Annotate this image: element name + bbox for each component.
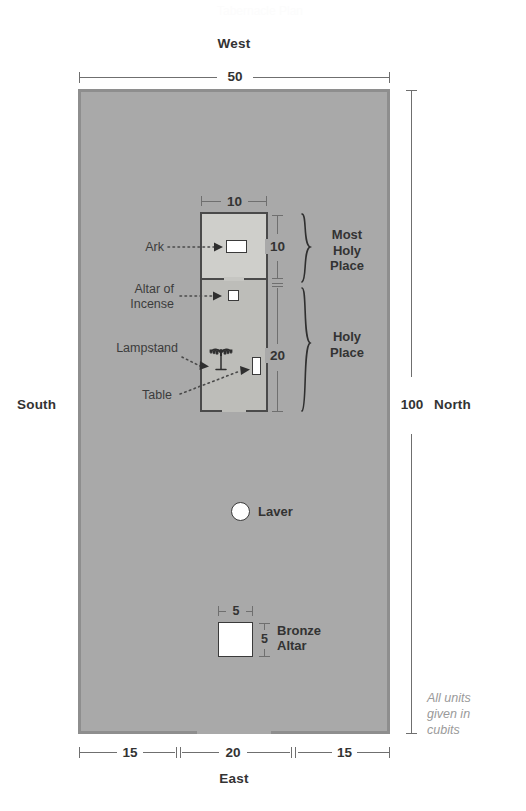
- dim-bottom-tick-a1: [176, 747, 177, 758]
- dim-entrance-middle-value: 20: [219, 745, 247, 760]
- tabernacle-diagram: Tabernacle Plan West 50 100 North South …: [0, 0, 526, 811]
- units-footnote-line1: All units: [427, 690, 522, 706]
- dim-15l-rule-a: [79, 752, 117, 753]
- dim-ba-depth-rule-top: [264, 623, 265, 630]
- label-most-holy-place-line1: Most: [316, 227, 378, 243]
- dim-bottom-tick-right: [389, 747, 390, 758]
- dim-20-rule-b: [247, 752, 290, 753]
- dim-15r-rule-b: [357, 752, 390, 753]
- dim-15r-rule-a: [298, 752, 332, 753]
- dim-ba-width-tick-right: [252, 606, 253, 616]
- compass-label-east: East: [0, 771, 468, 786]
- dim-bottom-tick-b2: [295, 747, 296, 758]
- dim-room-separator-tick-2: [272, 286, 283, 287]
- label-most-holy-place-line2: Holy: [316, 243, 378, 259]
- label-table: Table: [92, 388, 172, 403]
- dim-bronze-altar-depth-value: 5: [255, 632, 274, 646]
- dim-hp-rule-top: [277, 288, 278, 344]
- label-holy-place: Holy Place: [316, 329, 378, 360]
- label-altar-of-incense-line2: Incense: [70, 297, 174, 312]
- label-most-holy-place: Most Holy Place: [316, 227, 378, 274]
- label-ark: Ark: [78, 240, 164, 255]
- dim-entrance-right-value: 15: [332, 745, 357, 760]
- label-most-holy-place-line3: Place: [316, 258, 378, 274]
- dim-holy-length-value: 20: [265, 348, 290, 363]
- units-footnote-line3: cubits: [427, 722, 522, 738]
- dim-ba-depth-rule-bottom: [264, 649, 265, 656]
- dim-15l-rule-b: [143, 752, 175, 753]
- label-altar-of-incense-line1: Altar of: [70, 282, 174, 297]
- dim-ba-depth-tick-bottom: [259, 656, 270, 657]
- dim-hp-rule-bottom: [277, 371, 278, 411]
- dim-20-rule-a: [182, 752, 219, 753]
- dim-ba-width-rule-left: [218, 611, 226, 612]
- dim-bronze-altar-width-value: 5: [226, 604, 246, 618]
- dim-ba-width-tick-left: [218, 606, 219, 616]
- label-altar-of-incense: Altar of Incense: [70, 282, 174, 312]
- label-bronze-altar: Bronze Altar: [277, 623, 347, 653]
- dim-bottom-tick-a2: [180, 747, 181, 758]
- dim-mhp-rule-bottom: [277, 261, 278, 279]
- label-holy-place-line2: Place: [316, 345, 378, 361]
- dim-entrance-left-value: 15: [117, 745, 143, 760]
- dim-hp-tick-bottom: [272, 411, 283, 412]
- dim-mhp-rule-top: [277, 215, 278, 234]
- dim-bottom-tick-b1: [291, 747, 292, 758]
- label-bronze-altar-line2: Altar: [277, 638, 347, 653]
- dim-ba-depth-tick-top: [259, 623, 270, 624]
- label-laver: Laver: [258, 504, 293, 519]
- dim-mhp-tick-bottom: [272, 278, 283, 279]
- units-footnote-line2: given in: [427, 706, 522, 722]
- label-holy-place-line1: Holy: [316, 329, 378, 345]
- label-bronze-altar-line1: Bronze: [277, 623, 347, 638]
- dim-most-holy-length-value: 10: [265, 239, 290, 254]
- dim-mhp-tick-top: [272, 215, 283, 216]
- dim-room-separator-tick-1: [272, 283, 283, 284]
- dim-bottom-tick-left: [79, 747, 80, 758]
- label-lampstand: Lampstand: [60, 341, 178, 356]
- units-footnote: All units given in cubits: [427, 690, 522, 738]
